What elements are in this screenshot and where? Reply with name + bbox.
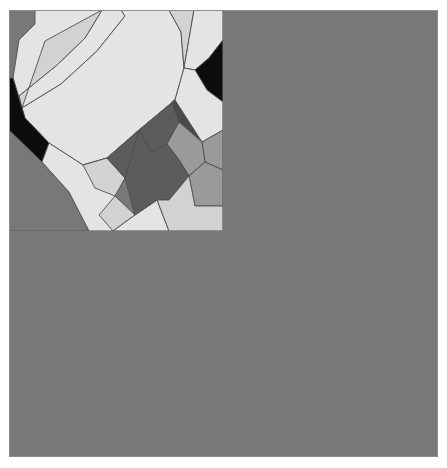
artwork-frame: [0, 0, 447, 468]
artwork-canvas: [9, 10, 438, 457]
quadrant-top-left: [9, 10, 223, 231]
